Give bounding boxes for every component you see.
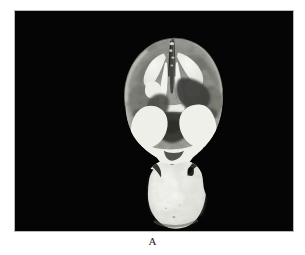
coronal-brain-section-image: [15, 11, 293, 231]
figure-caption: A: [0, 234, 305, 248]
scan-image-panel: [14, 10, 294, 232]
figure-panel-a: A: [0, 0, 305, 255]
